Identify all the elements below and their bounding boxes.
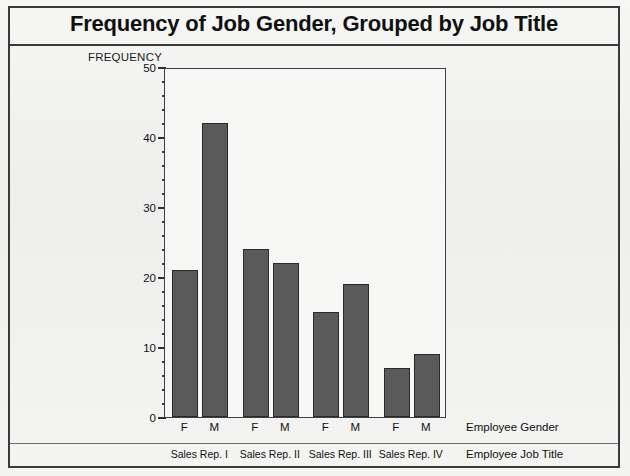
- x-tick-label-gender: M: [350, 421, 360, 433]
- y-tick-label: 10: [143, 342, 156, 354]
- y-tick-label: 20: [143, 272, 156, 284]
- bar-sales-rep-i-f: [172, 270, 198, 417]
- plot-area: [164, 68, 446, 418]
- bars-container: [165, 69, 445, 417]
- x-tick-label-gender: M: [280, 421, 290, 433]
- x-axis-name-job: Employee Job Title: [466, 448, 563, 460]
- x-tick-label-gender: M: [209, 421, 219, 433]
- title-divider: [10, 44, 618, 46]
- x-tick-label-gender: F: [322, 421, 329, 433]
- x-tick-label-gender: F: [251, 421, 258, 433]
- y-tick-label: 30: [143, 202, 156, 214]
- bar-sales-rep-iii-m: [343, 284, 369, 417]
- bar-sales-rep-ii-f: [243, 249, 269, 417]
- y-axis: 01020304050: [120, 60, 166, 426]
- chart-title: Frequency of Job Gender, Grouped by Job …: [10, 11, 618, 37]
- bar-sales-rep-iv-f: [384, 368, 410, 417]
- x-tick-label-gender: F: [181, 421, 188, 433]
- x-tick-label-gender: F: [392, 421, 399, 433]
- y-tick-label: 50: [143, 62, 156, 74]
- y-tick-label: 40: [143, 132, 156, 144]
- bar-sales-rep-i-m: [202, 123, 228, 417]
- x-tick-label-job-title: Sales Rep. IV: [379, 448, 443, 460]
- x-axis-gender-labels: FMFMFMFM: [164, 421, 446, 441]
- bar-sales-rep-iv-m: [414, 354, 440, 417]
- x-tick-label-job-title: Sales Rep. I: [171, 448, 228, 460]
- x-tick-label-gender: M: [421, 421, 431, 433]
- x-tick-label-job-title: Sales Rep. III: [309, 448, 372, 460]
- bottom-divider: [10, 443, 618, 444]
- chart-page: Frequency of Job Gender, Grouped by Job …: [0, 0, 630, 476]
- x-axis-job-labels: Sales Rep. ISales Rep. IISales Rep. IIIS…: [164, 448, 446, 468]
- x-tick-label-job-title: Sales Rep. II: [240, 448, 300, 460]
- bar-sales-rep-iii-f: [313, 312, 339, 417]
- bar-sales-rep-ii-m: [273, 263, 299, 417]
- x-axis-name-gender: Employee Gender: [466, 421, 559, 433]
- y-tick-label: 0: [150, 412, 156, 424]
